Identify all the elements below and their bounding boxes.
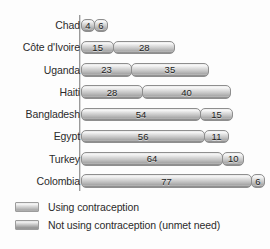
bar-value-label: 11 <box>212 131 222 142</box>
stacked-bar: 64 10 <box>81 152 244 166</box>
bar-row: Uganda 23 35 <box>0 59 270 81</box>
bar-value-label: 64 <box>147 153 158 164</box>
bar-segment-unmet: 35 <box>131 63 209 77</box>
chart-legend: Using contraception Not using contracept… <box>15 198 265 234</box>
bar-value-label: 4 <box>85 20 90 31</box>
bar-value-label: 28 <box>107 87 118 98</box>
bar-row: Bangladesh 54 15 <box>0 103 270 125</box>
bar-segment-using: 54 <box>81 108 201 122</box>
bar-row: Egypt 56 11 <box>0 125 270 147</box>
bar-segment-using: 64 <box>81 152 223 166</box>
legend-label: Using contraception <box>48 201 139 213</box>
legend-item-using: Using contraception <box>15 198 265 216</box>
category-label: Chad <box>4 14 80 36</box>
bar-segment-unmet: 6 <box>94 19 108 33</box>
bar-value-label: 35 <box>165 64 176 75</box>
bar-row: Turkey 64 10 <box>0 148 270 170</box>
bar-segment-using: 4 <box>81 19 95 33</box>
bar-segment-using: 77 <box>81 174 252 188</box>
category-label: Côte d'Ivoire <box>4 36 80 58</box>
stacked-bar: 28 40 <box>81 85 231 99</box>
plot-area: Chad 4 6 Côte d'Ivoire 15 28 <box>0 14 270 192</box>
bar-value-label: 56 <box>138 131 149 142</box>
bar-value-label: 6 <box>255 176 260 187</box>
stacked-bar: 23 35 <box>81 63 209 77</box>
bar-segment-unmet: 11 <box>204 130 228 144</box>
category-label: Egypt <box>4 125 80 147</box>
bar-value-label: 23 <box>101 64 112 75</box>
bar-segment-unmet: 40 <box>142 85 231 99</box>
stacked-bar: 56 11 <box>81 130 229 144</box>
bar-value-label: 15 <box>92 42 103 53</box>
bar-segment-using: 28 <box>81 85 143 99</box>
bar-segment-using: 15 <box>81 41 114 55</box>
stacked-bar: 54 15 <box>81 108 233 122</box>
category-label: Haiti <box>4 81 80 103</box>
bar-row: Chad 4 6 <box>0 14 270 36</box>
bar-value-label: 40 <box>181 87 192 98</box>
bar-segment-using: 23 <box>81 63 132 77</box>
bar-value-label: 28 <box>139 42 150 53</box>
stacked-bar: 15 28 <box>81 41 175 55</box>
stacked-bar: 4 6 <box>81 19 108 33</box>
bar-value-label: 54 <box>136 109 147 120</box>
bar-segment-unmet: 6 <box>251 174 265 188</box>
category-label: Colombia <box>4 170 80 192</box>
bar-segment-using: 56 <box>81 130 205 144</box>
bar-value-label: 6 <box>98 20 103 31</box>
stacked-bar: 77 6 <box>81 174 265 188</box>
category-label: Uganda <box>4 59 80 81</box>
bar-value-label: 10 <box>228 153 239 164</box>
bar-segment-unmet: 10 <box>222 152 244 166</box>
legend-label: Not using contraception (unmet need) <box>48 219 220 231</box>
legend-swatch-icon <box>15 202 39 212</box>
stacked-bar-chart: Chad 4 6 Côte d'Ivoire 15 28 <box>0 0 270 249</box>
bar-row: Côte d'Ivoire 15 28 <box>0 36 270 58</box>
legend-swatch-icon <box>15 220 39 230</box>
bar-value-label: 15 <box>211 109 222 120</box>
bar-row: Haiti 28 40 <box>0 81 270 103</box>
bar-segment-unmet: 28 <box>113 41 175 55</box>
bar-row: Colombia 77 6 <box>0 170 270 192</box>
legend-item-unmet: Not using contraception (unmet need) <box>15 216 265 234</box>
bar-value-label: 77 <box>161 176 172 187</box>
category-label: Bangladesh <box>4 103 80 125</box>
category-label: Turkey <box>4 148 80 170</box>
bar-segment-unmet: 15 <box>200 108 233 122</box>
